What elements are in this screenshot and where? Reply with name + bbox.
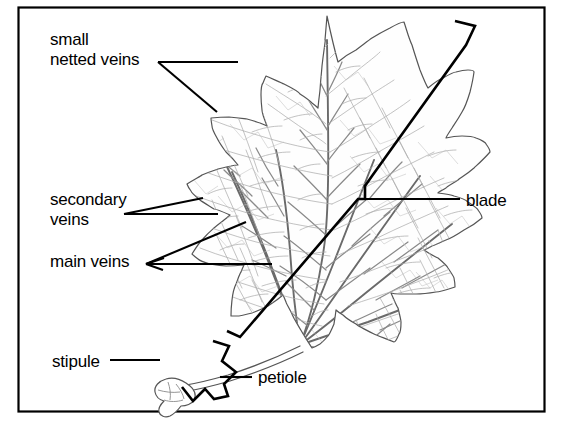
label-secondary-veins-line1: secondary: [50, 190, 127, 209]
label-petiole: petiole: [258, 368, 307, 388]
label-stipule: stipule: [52, 352, 100, 372]
label-main-veins: main veins: [50, 252, 129, 272]
leaf-outline: [187, 16, 490, 348]
label-small-netted-veins-line1: small: [50, 30, 89, 49]
leaf-blade: [155, 16, 490, 417]
label-small-netted-veins-line2: netted veins: [50, 50, 139, 69]
label-blade: blade: [466, 191, 507, 211]
leader-secondary-veins-a: [124, 198, 203, 214]
label-small-netted-veins: smallnetted veins: [50, 30, 139, 70]
leader-small-netted-veins-b: [158, 62, 217, 112]
label-secondary-veins-line2: veins: [50, 210, 89, 229]
label-secondary-veins: secondaryveins: [50, 190, 127, 230]
leaf-diagram-figure: smallnetted veins secondaryveins main ve…: [0, 0, 564, 431]
